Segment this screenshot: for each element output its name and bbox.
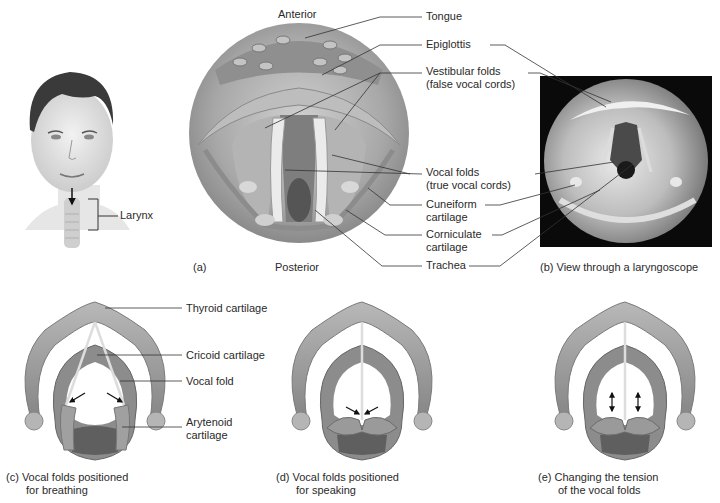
head-illustration (25, 72, 130, 248)
panel-b-caption: (b) View through a laryngoscope (540, 261, 698, 274)
label-vocal-folds: Vocal folds (true vocal cords) (426, 166, 511, 192)
label-vestibular-folds: Vestibular folds (false vocal cords) (426, 65, 515, 91)
label-epiglottis: Epiglottis (426, 38, 471, 51)
panel-e-diagram (555, 302, 695, 460)
label-vocal-fold: Vocal fold (186, 375, 234, 388)
panel-d-caption: (d) Vocal folds positioned for speaking (276, 471, 399, 497)
label-cricoid-cartilage: Cricoid cartilage (186, 349, 265, 362)
anterior-label: Anterior (278, 8, 317, 21)
panel-a-illustration (189, 23, 409, 243)
label-trachea: Trachea (426, 259, 466, 272)
panel-d-diagram (292, 302, 432, 460)
label-arytenoid-cartilage: Arytenoid cartilage (186, 416, 232, 442)
label-thyroid-cartilage: Thyroid cartilage (186, 302, 267, 315)
label-tongue: Tongue (426, 10, 462, 23)
label-corniculate-cartilage: Corniculate cartilage (426, 228, 482, 254)
figure-graphics (0, 0, 720, 503)
panel-a-letter: (a) (193, 261, 206, 274)
panel-e-caption: (e) Changing the tension of the vocal fo… (538, 471, 658, 497)
posterior-label: Posterior (275, 261, 319, 274)
panel-c-caption: (c) Vocal folds positioned for breathing (6, 471, 128, 497)
larynx-label: Larynx (120, 209, 153, 222)
label-cuneiform-cartilage: Cuneiform cartilage (426, 198, 477, 224)
panel-b-photo (540, 76, 712, 247)
